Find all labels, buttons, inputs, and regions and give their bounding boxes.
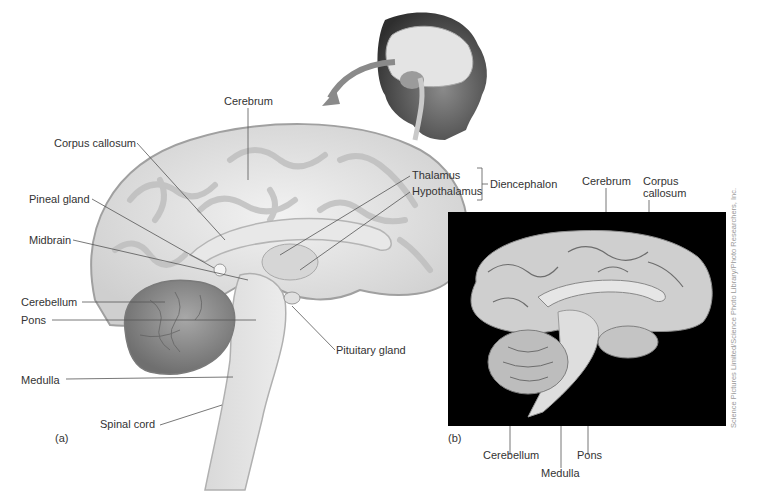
- label-pons-a: Pons: [21, 314, 46, 327]
- panel-letter-a: (a): [55, 432, 68, 444]
- brain-photo-b: [448, 212, 726, 426]
- label-hypothalamus: Hypothalamus: [412, 185, 482, 198]
- label-spinal-cord: Spinal cord: [100, 418, 155, 431]
- label-medulla-b: Medulla: [541, 467, 580, 480]
- label-pineal-gland: Pineal gland: [29, 193, 90, 206]
- label-cerebellum-b: Cerebellum: [483, 449, 539, 462]
- label-midbrain: Midbrain: [29, 234, 71, 247]
- label-corpus-callosum-b-line2: callosum: [643, 187, 686, 200]
- label-medulla-a: Medulla: [21, 374, 60, 387]
- photo-credit: Science Pictures Limited/Science Photo L…: [729, 208, 738, 428]
- label-corpus-callosum-a: Corpus callosum: [54, 137, 136, 150]
- label-pons-b: Pons: [577, 449, 602, 462]
- head-inset: [378, 12, 487, 140]
- label-cerebrum-b: Cerebrum: [582, 175, 631, 188]
- label-thalamus: Thalamus: [412, 169, 460, 182]
- label-cerebrum-a: Cerebrum: [224, 95, 273, 108]
- label-cerebellum-a: Cerebellum: [21, 296, 77, 309]
- label-pituitary-gland: Pituitary gland: [336, 344, 406, 357]
- panel-letter-b: (b): [448, 432, 461, 444]
- label-diencephalon: Diencephalon: [490, 178, 557, 191]
